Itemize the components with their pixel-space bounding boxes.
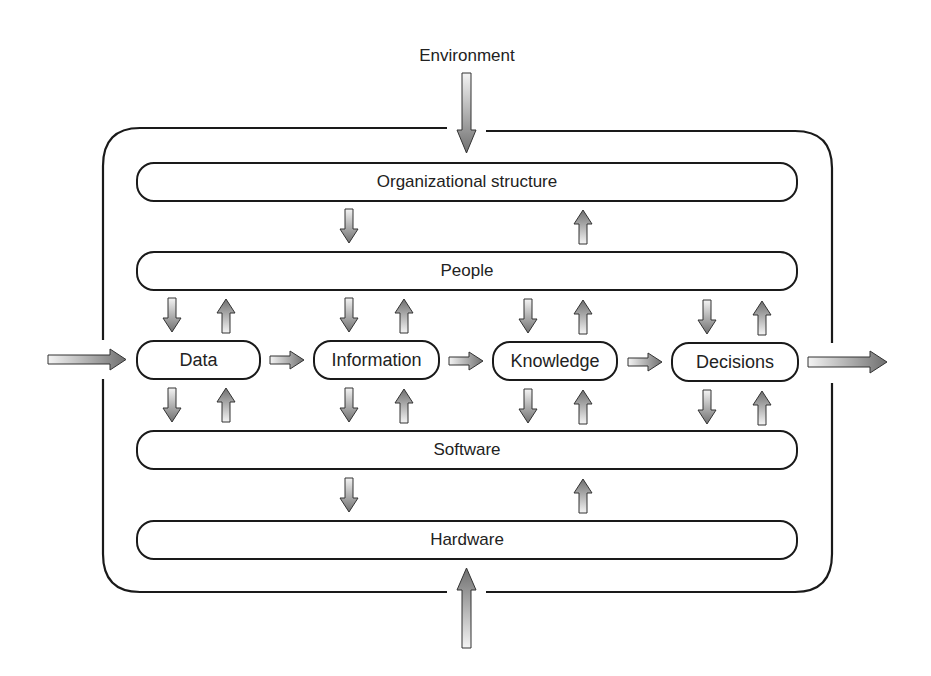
arrow-people-to-data	[163, 298, 181, 332]
arrow-people-to-org	[574, 210, 592, 244]
arrow-data-to-people	[217, 299, 235, 333]
arrow-software-to-information	[395, 389, 413, 423]
arrow-software-to-knowledge	[574, 390, 592, 424]
arrow-data-to-software	[163, 388, 181, 422]
arrow-hardware-to-software	[574, 479, 592, 513]
arrow-knowledge-to-people	[574, 300, 592, 334]
system-diagram	[0, 0, 931, 676]
arrow-decisions-to-software	[698, 390, 716, 424]
arrow-software-to-data	[217, 388, 235, 422]
arrow-decisions-to-people	[753, 301, 771, 335]
node-label-information: Information	[314, 351, 439, 369]
node-label-knowledge: Knowledge	[493, 352, 617, 370]
node-label-data: Data	[137, 351, 260, 369]
layer-label-people: People	[137, 262, 797, 279]
arrow-software-to-decisions	[753, 391, 771, 425]
arrow-software-to-hardware	[340, 478, 358, 512]
output-arrow	[808, 351, 887, 373]
arrow-knowledge-to-decisions	[628, 353, 662, 371]
arrow-knowledge-to-software	[519, 389, 537, 423]
environment-arrow-bottom	[457, 568, 476, 648]
arrow-information-to-knowledge	[449, 352, 483, 370]
layer-label-software: Software	[137, 441, 797, 458]
arrow-information-to-people	[395, 299, 413, 333]
node-label-decisions: Decisions	[672, 353, 798, 371]
arrow-data-to-information	[270, 351, 304, 369]
layer-label-organizational-structure: Organizational structure	[137, 173, 797, 190]
arrow-org-to-people	[340, 209, 358, 243]
arrow-people-to-information	[340, 298, 358, 332]
layer-label-hardware: Hardware	[137, 531, 797, 548]
arrow-people-to-knowledge	[519, 299, 537, 333]
environment-label: Environment	[367, 47, 567, 64]
arrow-people-to-decisions	[698, 300, 716, 334]
arrow-information-to-software	[340, 388, 358, 422]
input-arrow	[48, 349, 126, 370]
environment-arrow-top	[457, 73, 476, 153]
